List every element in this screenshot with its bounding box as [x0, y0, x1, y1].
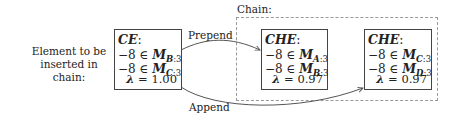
node-che-1: CHE: −8 ∈ MA:3 −8 ∈ MB:3 λ = 0.97: [261, 29, 328, 90]
lambda-value: λ = 0.97: [376, 72, 427, 86]
node-title: CHE:: [368, 32, 404, 47]
prepend-arrow: [181, 40, 260, 50]
node-che-2: CHE: −8 ∈ MC:3 −8 ∈ MD:3 λ = 0.97: [364, 29, 432, 90]
lambda-value: λ = 1.00: [126, 72, 177, 86]
node-ce: CE: −8 ∈ MB:3 −8 ∈ MC:3 λ = 1.00: [114, 29, 182, 90]
node-title: CE:: [118, 32, 142, 47]
lambda-value: λ = 0.97: [272, 72, 323, 86]
append-label: Append: [189, 101, 230, 113]
prepend-label: Prepend: [188, 29, 233, 41]
node-title: CHE:: [265, 32, 301, 47]
